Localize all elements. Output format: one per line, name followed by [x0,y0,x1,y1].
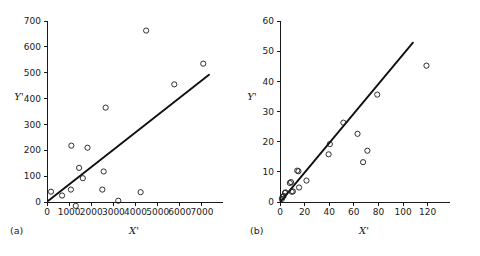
y-tick-label: 0 [268,197,274,207]
panel-b: 0102030405060020406080100120X'Y'(b) [240,0,480,256]
data-point [85,145,90,150]
y-tick-label: 200 [24,145,41,155]
panel-label: (b) [250,225,263,236]
data-point [365,148,370,153]
y-tick-label: 300 [24,120,41,130]
panel-label: (a) [10,225,23,236]
x-tick-label: 0 [44,207,50,217]
x-tick-label: 60 [348,207,360,217]
data-point [59,193,64,198]
y-axis-title: Y' [14,91,23,102]
x-tick-label: 0 [277,207,283,217]
x-tick-label: 5000 [146,207,169,217]
data-point [355,131,360,136]
y-tick-label: 500 [24,68,41,78]
y-tick-label: 0 [35,197,41,207]
x-tick-label: 40 [324,207,336,217]
y-tick-label: 20 [263,137,275,147]
y-tick-label: 10 [263,167,275,177]
data-point [69,143,74,148]
data-point [138,190,143,195]
figure-two-scatter-panels: 0100200300400500600700010002000300040005… [0,0,480,256]
panel-a-plot: 0100200300400500600700010002000300040005… [0,0,240,256]
y-tick-label: 600 [24,42,41,52]
data-point [68,187,73,192]
data-point [144,28,149,33]
data-point [304,178,309,183]
data-point [48,189,53,194]
data-point [375,92,380,97]
data-point [80,176,85,181]
x-axis-title: X' [128,225,139,236]
data-point [101,169,106,174]
data-point [103,105,108,110]
data-point [326,152,331,157]
x-tick-label: 100 [394,207,411,217]
x-tick-label: 7000 [190,207,213,217]
x-tick-label: 80 [373,207,385,217]
plot-group: 0102030405060020406080100120X'Y'(b) [247,16,450,236]
x-tick-label: 3000 [102,207,125,217]
panel-a: 0100200300400500600700010002000300040005… [0,0,240,256]
data-point [296,185,301,190]
x-tick-label: 2000 [80,207,103,217]
y-tick-label: 400 [24,94,41,104]
plot-group: 0100200300400500600700010002000300040005… [10,16,223,236]
x-tick-label: 20 [299,207,311,217]
x-axis-title: X' [358,225,369,236]
regression-fit-line [281,43,413,202]
x-tick-label: 120 [419,207,436,217]
data-point [172,82,177,87]
data-point [116,198,121,203]
x-tick-label: 1000 [58,207,81,217]
y-tick-label: 30 [263,107,275,117]
data-point [360,160,365,165]
y-tick-label: 60 [263,16,275,26]
y-tick-label: 50 [263,46,275,56]
data-point [424,63,429,68]
y-axis-title: Y' [247,91,256,102]
x-tick-label: 4000 [124,207,147,217]
y-tick-label: 100 [24,171,41,181]
data-point [100,187,105,192]
regression-fit-line [48,75,209,201]
data-point [201,61,206,66]
data-point [76,165,81,170]
y-tick-label: 700 [24,16,41,26]
panel-b-plot: 0102030405060020406080100120X'Y'(b) [240,0,480,256]
y-tick-label: 40 [263,77,275,87]
x-tick-label: 6000 [168,207,191,217]
